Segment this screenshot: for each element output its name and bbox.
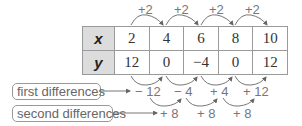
first-differences-label: first differences [12,83,101,100]
second-difference-arrow-icon [186,98,217,106]
x-step-label: +2 [174,3,189,16]
x-cell: 8 [218,27,253,51]
second-difference-arrows [150,98,254,106]
y-header: y [83,51,115,75]
x-step-label: +2 [245,3,260,16]
first-difference-value: − 4 [174,85,192,98]
xy-table: x 2 4 6 8 10 y 12 0 −4 0 12 [82,26,288,75]
y-cell: −4 [184,51,219,75]
y-cell: 0 [218,51,253,75]
second-difference-arrow-icon [150,98,181,106]
y-cell: 12 [115,51,150,75]
x-row: x 2 4 6 8 10 [83,27,288,51]
second-difference-value: + 8 [233,107,251,120]
x-header: x [83,27,115,51]
x-cell: 2 [115,27,150,51]
first-difference-value: + 4 [210,85,228,98]
x-step-label: +2 [209,3,224,16]
second-difference-arrow-icon [223,98,254,106]
x-step-label: +2 [138,3,153,16]
second-difference-value: + 8 [197,107,215,120]
y-cell: 0 [149,51,184,75]
x-cell: 10 [253,27,288,51]
second-differences-label: second differences [12,105,113,122]
y-cell: 12 [253,51,288,75]
y-row: y 12 0 −4 0 12 [83,51,288,75]
x-cell: 6 [184,27,219,51]
first-difference-value: − 12 [135,85,161,98]
x-cell: 4 [149,27,184,51]
second-difference-value: + 8 [160,107,178,120]
first-difference-value: + 12 [243,85,269,98]
quadratic-differences-diagram: +2 +2 +2 +2 x 2 4 6 8 10 y 12 0 −4 0 12 … [0,0,302,126]
